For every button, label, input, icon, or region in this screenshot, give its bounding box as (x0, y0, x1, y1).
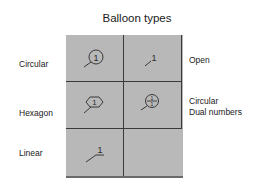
label-linear: Linear (19, 148, 43, 158)
open-balloon-icon: 1 (124, 35, 182, 82)
label-circular-dual-line1: Circular (189, 96, 218, 106)
balloon-cell-open[interactable]: 1 (124, 35, 182, 82)
linear-balloon-icon: 1 (66, 129, 124, 176)
label-circular: Circular (19, 59, 48, 69)
hexagon-balloon-icon: 1 (66, 82, 124, 129)
svg-text:1: 1 (93, 53, 98, 63)
empty-cell (124, 129, 182, 176)
balloon-cell-hexagon[interactable]: 1 (66, 82, 124, 129)
diagram-title: Balloon types (0, 12, 274, 24)
svg-text:1: 1 (151, 53, 156, 63)
balloon-cell-linear[interactable]: 1 (66, 129, 124, 176)
balloon-type-grid: 1 1 1 1 1 1 (66, 35, 183, 178)
label-circular-dual-line2: Dual numbers (189, 107, 242, 117)
svg-text:1: 1 (97, 145, 102, 155)
balloon-cell-circular[interactable]: 1 (66, 35, 124, 82)
svg-text:1: 1 (151, 101, 154, 107)
label-hexagon: Hexagon (19, 108, 53, 118)
circular-dual-balloon-icon: 1 1 (124, 82, 182, 129)
label-open: Open (189, 55, 210, 65)
balloon-cell-circular-dual[interactable]: 1 1 (124, 82, 182, 129)
svg-text:1: 1 (92, 98, 97, 107)
circular-balloon-icon: 1 (66, 35, 124, 82)
